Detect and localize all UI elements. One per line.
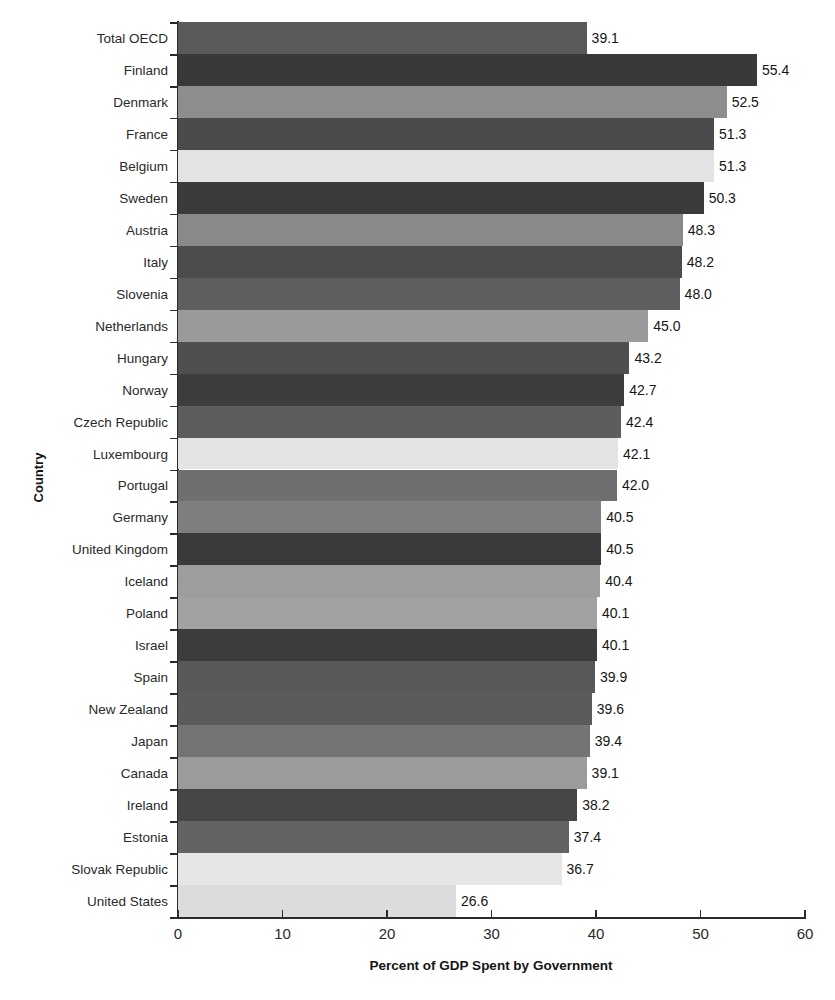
y-axis-category-label: Sweden [8, 190, 168, 205]
y-axis-tick-mark [170, 821, 178, 823]
y-axis-tick-mark [170, 278, 178, 280]
y-axis-tick-mark [170, 533, 178, 535]
y-axis-category-label: Hungary [8, 350, 168, 365]
y-axis-tick-mark [170, 757, 178, 759]
bar[interactable] [178, 374, 624, 406]
x-axis-tick-label: 30 [483, 925, 500, 942]
bar-value-label: 40.1 [597, 637, 629, 653]
y-axis-tick-mark [170, 470, 178, 472]
bar[interactable] [178, 22, 587, 54]
y-axis-category-label: Spain [8, 670, 168, 685]
bar[interactable] [178, 214, 683, 246]
x-axis-tick-label: 50 [692, 925, 709, 942]
bar-row: 40.1 [178, 597, 805, 629]
bar-value-label: 26.6 [456, 893, 488, 909]
bar-value-label: 39.1 [587, 765, 619, 781]
bar-chart: Country Percent of GDP Spent by Governme… [0, 0, 835, 1000]
bar-value-label: 51.3 [714, 126, 746, 142]
bar-value-label: 40.5 [601, 509, 633, 525]
y-axis-category-label: New Zealand [8, 702, 168, 717]
x-axis-tick-label: 0 [174, 925, 182, 942]
x-axis-tick-mark [491, 910, 493, 919]
bar[interactable] [178, 501, 601, 533]
x-axis-tick-label: 20 [379, 925, 396, 942]
bar[interactable] [178, 342, 629, 374]
bar[interactable] [178, 565, 600, 597]
y-axis-category-label: Iceland [8, 574, 168, 589]
y-axis-tick-mark [170, 54, 178, 56]
bar[interactable] [178, 54, 757, 86]
bar-value-label: 40.5 [601, 541, 633, 557]
bar[interactable] [178, 757, 587, 789]
y-axis-tick-mark [170, 214, 178, 216]
bar[interactable] [178, 182, 704, 214]
bar[interactable] [178, 629, 597, 661]
y-axis-category-label: Netherlands [8, 318, 168, 333]
bar[interactable] [178, 597, 597, 629]
x-axis-tick-mark [700, 910, 702, 919]
y-axis-category-label: Germany [8, 510, 168, 525]
bar[interactable] [178, 693, 592, 725]
y-axis-tick-mark [170, 438, 178, 440]
bar-row: 42.7 [178, 374, 805, 406]
bar-row: 39.1 [178, 757, 805, 789]
bar-row: 42.1 [178, 438, 805, 470]
bar[interactable] [178, 150, 714, 182]
bar-value-label: 48.0 [680, 286, 712, 302]
y-axis-tick-mark [170, 374, 178, 376]
bar[interactable] [178, 406, 621, 438]
y-axis-category-label: United Kingdom [8, 542, 168, 557]
bar-row: 40.5 [178, 533, 805, 565]
bar[interactable] [178, 470, 617, 502]
y-axis-category-label: Slovak Republic [8, 862, 168, 877]
bar-row: 48.2 [178, 246, 805, 278]
bar-value-label: 50.3 [704, 190, 736, 206]
bar[interactable] [178, 246, 682, 278]
y-axis-category-label: Luxembourg [8, 446, 168, 461]
bar-row: 45.0 [178, 310, 805, 342]
bar-row: 40.4 [178, 565, 805, 597]
x-axis-title: Percent of GDP Spent by Government [178, 958, 804, 973]
y-axis-tick-mark [170, 182, 178, 184]
bar-row: 51.3 [178, 150, 805, 182]
y-axis-tick-mark [170, 565, 178, 567]
y-axis-tick-mark [170, 246, 178, 248]
bar[interactable] [178, 310, 648, 342]
bar-value-label: 36.7 [562, 861, 594, 877]
bar[interactable] [178, 661, 595, 693]
bar[interactable] [178, 725, 590, 757]
bar-row: 50.3 [178, 182, 805, 214]
y-axis-tick-mark [170, 725, 178, 727]
bar-value-label: 55.4 [757, 62, 789, 78]
bar-value-label: 40.4 [600, 573, 632, 589]
bar-value-label: 51.3 [714, 158, 746, 174]
bar-row: 48.3 [178, 214, 805, 246]
x-axis-tick-label: 40 [588, 925, 605, 942]
y-axis-category-label: Czech Republic [8, 414, 168, 429]
y-axis-category-label: Estonia [8, 830, 168, 845]
y-axis-tick-mark [170, 629, 178, 631]
y-axis-category-label: Israel [8, 638, 168, 653]
y-axis-category-label: Denmark [8, 94, 168, 109]
bar[interactable] [178, 438, 618, 470]
bar-value-label: 42.1 [618, 446, 650, 462]
bar-value-label: 42.7 [624, 382, 656, 398]
x-axis-tick-mark [177, 910, 179, 919]
y-axis-category-label: Poland [8, 606, 168, 621]
y-axis-tick-mark [170, 22, 178, 24]
y-axis-tick-mark [170, 342, 178, 344]
bar[interactable] [178, 278, 680, 310]
bar[interactable] [178, 118, 714, 150]
bar[interactable] [178, 789, 577, 821]
bar-row: 48.0 [178, 278, 805, 310]
bar[interactable] [178, 853, 562, 885]
bar-value-label: 38.2 [577, 797, 609, 813]
bar[interactable] [178, 86, 727, 118]
bar[interactable] [178, 821, 569, 853]
y-axis-category-label: Finland [8, 62, 168, 77]
bar-value-label: 48.2 [682, 254, 714, 270]
bar-row: 37.4 [178, 821, 805, 853]
bar[interactable] [178, 533, 601, 565]
bar[interactable] [178, 885, 456, 917]
bar-value-label: 52.5 [727, 94, 759, 110]
